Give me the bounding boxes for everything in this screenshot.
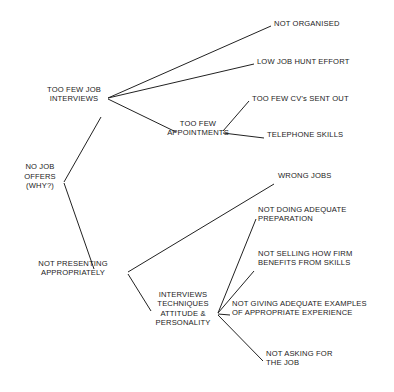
node-low_job_hunt_effort: LOW JOB HUNT EFFORT <box>257 57 349 66</box>
node-not_asking: NOT ASKING FOR THE JOB <box>266 349 333 367</box>
node-not_organised: NOT ORGANISED <box>274 19 340 28</box>
cause-tree-diagram: NO JOB OFFERS (WHY?)TOO FEW JOB INTERVIE… <box>0 0 394 392</box>
node-not_doing_prep: NOT DOING ADEQUATE PREPARATION <box>258 205 347 223</box>
node-not_selling: NOT SELLING HOW FIRM BENEFITS FROM SKILL… <box>258 249 352 267</box>
node-wrong_jobs: WRONG JOBS <box>278 171 331 180</box>
node-not_giving_examples: NOT GIVING ADEQUATE EXAMPLES OF APPROPRI… <box>232 299 367 317</box>
node-too_few_cvs: TOO FEW CV's SENT OUT <box>252 94 349 103</box>
node-interviews_techniques: INTERVIEWS TECHNIQUES ATTITUDE & PERSONA… <box>123 290 243 327</box>
edge-no_job_offers-to-not_presenting <box>64 183 94 269</box>
node-telephone_skills: TELEPHONE SKILLS <box>267 130 343 139</box>
node-not_presenting: NOT PRESENTING APPROPRIATELY <box>13 259 133 277</box>
node-no_job_offers: NO JOB OFFERS (WHY?) <box>0 162 100 190</box>
node-too_few_appointments: TOO FEW APPOINTMENTS <box>138 119 258 137</box>
edge-not_presenting-to-wrong_jobs <box>128 184 274 272</box>
node-too_few_interviews: TOO FEW JOB INTERVIEWS <box>14 85 134 103</box>
